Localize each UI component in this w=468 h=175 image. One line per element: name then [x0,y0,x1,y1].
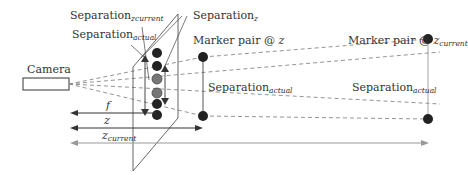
marker-zcurrent-bottom [423,114,433,124]
separation-actual-label-right: Separationactual [352,82,437,97]
camera-icon [23,78,69,90]
z-distance-label: z [104,115,110,127]
marker-z-bottom [198,111,208,121]
separation-zcurrent-label: Separationzcurrent [70,10,164,25]
separation-actual-label-middle: Separationactual [208,82,293,97]
marker-pair-zcurrent-label: Marker pair @ zcurrent [348,35,468,50]
zcurrent-distance-label: zcurrent [102,130,136,145]
marker-z-top [198,52,208,62]
separation-z-label: Separationz [193,10,258,25]
separation-actual-label-left: Separationactual [72,29,157,44]
image-plane-markers [152,48,162,120]
focal-length-label: f [106,100,110,112]
camera-label: Camera [27,64,71,76]
marker-pair-z-label: Marker pair @ z [193,35,284,47]
projection-rays [69,39,440,119]
